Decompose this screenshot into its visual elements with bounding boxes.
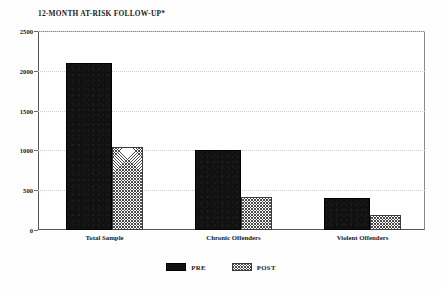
legend-label: PRE [191,264,206,271]
bar-post [112,147,143,230]
solid-black-swatch [166,263,186,271]
x-axis-tick-label: Total Sample [85,234,123,241]
y-axis-tick-mark [34,150,38,151]
y-axis-tick-label: 1500 [20,107,33,114]
bar-post [241,197,272,230]
bar-pre [195,150,241,230]
x-axis-tick-label: Chronic Offenders [206,234,260,241]
y-axis-tick-mark [34,31,38,32]
y-axis-tick-mark [34,190,38,191]
y-axis-tick-label: 1000 [20,147,33,154]
legend-label: POST [257,264,276,271]
chart-figure: 12-MONTH AT-RISK FOLLOW-UP* 050010001500… [0,0,442,291]
y-axis-tick-label: 2000 [20,67,33,74]
y-axis-tick-labels: 05001000150020002500 [0,31,33,230]
y-axis-tick-label: 500 [23,187,33,194]
y-axis-tick-label: 2500 [20,28,33,35]
x-axis-tick-label: Violent Offenders [337,234,389,241]
legend-item: PRE [166,263,206,271]
plot-area [38,31,425,230]
chart-legend: PREPOST [0,263,442,271]
legend-item: POST [232,263,276,271]
hatched-swatch [232,263,252,271]
y-axis-tick-mark [34,71,38,72]
bar-post [370,215,401,230]
chart-title: 12-MONTH AT-RISK FOLLOW-UP* [38,9,165,18]
y-axis-tick-mark [34,111,38,112]
gridline [38,31,425,32]
bar-pre [66,63,112,230]
y-axis-tick-mark [34,230,38,231]
y-axis-tick-label: 0 [30,227,33,234]
bar-pre [324,198,370,230]
